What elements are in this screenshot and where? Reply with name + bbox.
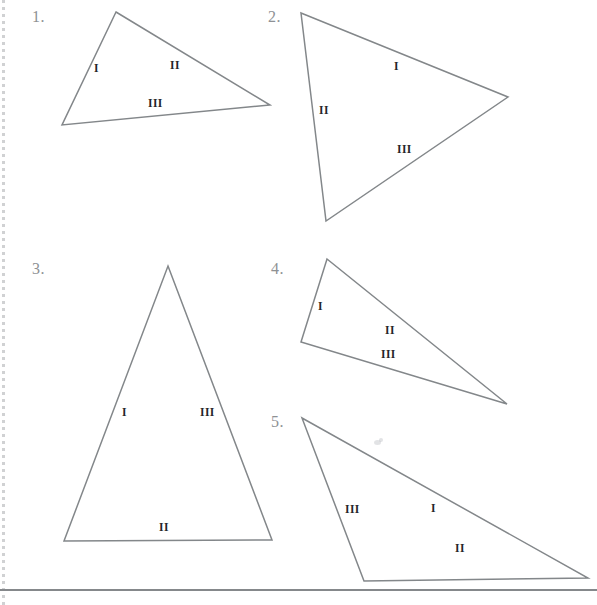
triangle-3-side-label: II: [159, 521, 169, 533]
triangle-2-side-label: III: [397, 143, 412, 155]
triangle-5-side-label: I: [431, 502, 436, 514]
triangle-3: [64, 266, 272, 541]
problem-number-3: 3.: [32, 260, 45, 278]
triangles-canvas: [0, 0, 597, 605]
worksheet-page: 1. 2. 3. 4. 5. I II III I II III I III I…: [0, 0, 597, 605]
triangle-1-side-label: II: [170, 59, 180, 71]
problem-number-2: 2.: [268, 8, 281, 26]
triangle-2-side-label: II: [319, 104, 329, 116]
triangle-2-side-label: I: [394, 60, 399, 72]
triangle-5-side-label: II: [455, 542, 465, 554]
problem-number-5: 5.: [271, 413, 284, 431]
triangle-3-side-label: I: [122, 406, 127, 418]
triangle-4-side-label: I: [318, 300, 323, 312]
scan-smudge: [379, 438, 383, 442]
problem-number-1: 1.: [32, 8, 45, 26]
triangle-5: [302, 418, 588, 581]
problem-number-4: 4.: [271, 260, 284, 278]
triangle-1-side-label: III: [148, 97, 163, 109]
triangle-4-side-label: II: [385, 324, 395, 336]
bottom-rule: [0, 589, 597, 591]
triangle-5-side-label: III: [345, 503, 360, 515]
triangle-4-side-label: III: [381, 348, 396, 360]
triangle-4: [301, 259, 507, 404]
triangle-3-side-label: III: [200, 406, 215, 418]
triangle-2: [301, 13, 508, 221]
triangle-1-side-label: I: [94, 62, 99, 74]
